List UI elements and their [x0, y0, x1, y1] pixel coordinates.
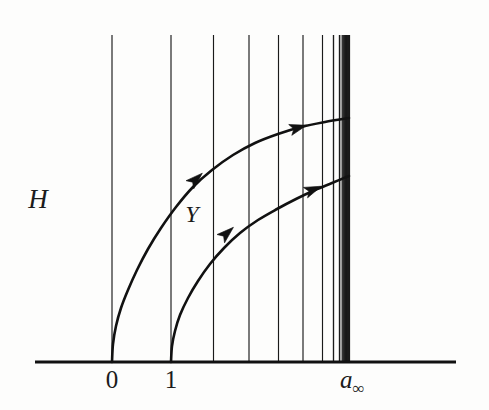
tick-label-zero: 0: [106, 366, 119, 393]
vertical-fibers-group: [112, 35, 348, 362]
flow-label-Y: Y: [185, 201, 201, 227]
diagram-canvas: H Y 0 1 a∞: [0, 0, 489, 410]
flow-arrowhead: [289, 120, 308, 135]
flow-arrowhead: [217, 223, 237, 243]
tick-label-one: 1: [165, 366, 178, 393]
accumulation-edge: [347, 35, 350, 362]
tick-label-a-infinity: a∞: [340, 366, 365, 398]
figure-container: H Y 0 1 a∞: [0, 0, 489, 410]
accumulation-band: [340, 35, 350, 362]
flow-curves-group: [112, 118, 349, 362]
tick-label-infinity-subscript: ∞: [353, 379, 365, 398]
tick-label-a-base: a: [340, 366, 353, 393]
axis-label-H: H: [27, 184, 49, 214]
